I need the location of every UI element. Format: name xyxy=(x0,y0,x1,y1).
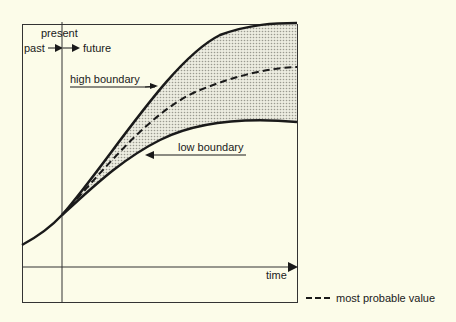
past-curve xyxy=(22,215,62,245)
high-boundary-label: high boundary xyxy=(70,74,140,85)
legend-most-probable-label: most probable value xyxy=(336,293,435,304)
future-label: future xyxy=(83,43,111,54)
low-boundary-pointer-icon xyxy=(145,151,154,159)
future-arrow-icon xyxy=(72,44,80,52)
time-arrow-icon xyxy=(288,262,298,272)
time-axis-label: time xyxy=(266,270,287,281)
forecast-diagram xyxy=(0,0,456,322)
present-label: present xyxy=(41,28,78,39)
low-boundary-label: low boundary xyxy=(178,142,243,153)
past-label: past xyxy=(24,43,45,54)
high-boundary-pointer-icon xyxy=(150,83,158,89)
low-boundary-curve xyxy=(62,120,297,215)
